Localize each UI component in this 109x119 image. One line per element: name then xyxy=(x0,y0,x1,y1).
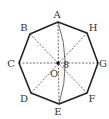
vertex-label-e: E xyxy=(54,106,61,117)
vertex-label-d: D xyxy=(20,93,28,104)
vertex-label-a: A xyxy=(52,9,61,20)
vertex-label-b: B xyxy=(20,22,27,33)
vertex-label-f: F xyxy=(89,93,96,104)
octagon-diagram: AHGFEDCB O 8 xyxy=(0,0,109,119)
center-point-o xyxy=(56,61,60,65)
arc-label: 8 xyxy=(63,59,69,70)
vertex-label-g: G xyxy=(99,58,107,69)
vertex-label-c: C xyxy=(7,58,15,69)
center-label: O xyxy=(50,68,58,79)
vertex-label-h: H xyxy=(89,22,98,33)
